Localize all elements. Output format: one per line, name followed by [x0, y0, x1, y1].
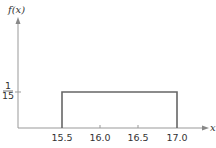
x-tick-label: 16.0 — [89, 132, 110, 143]
y-axis-label: f(x) — [7, 4, 25, 15]
uniform-density-chart: f(x) x 1 15 15.5 16.0 16.5 17.0 — [0, 0, 216, 148]
x-axis-label: x — [210, 122, 216, 133]
y-tick-denominator: 15 — [2, 90, 14, 101]
x-tick-label: 16.5 — [127, 132, 148, 143]
x-tick-label: 17.0 — [166, 132, 187, 143]
x-axis-arrow-icon — [202, 126, 209, 131]
y-axis-arrow-icon — [16, 17, 21, 24]
density-rectangle — [62, 92, 177, 128]
x-tick-label: 15.5 — [51, 132, 72, 143]
